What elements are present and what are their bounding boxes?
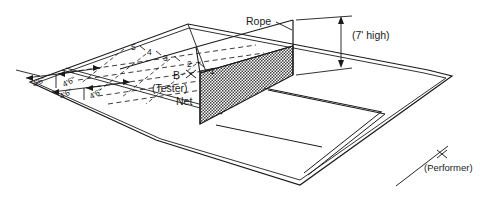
- net-height-label: (7' high): [352, 30, 390, 41]
- court-outer-boundary: [30, 24, 452, 185]
- height-dimension: [296, 16, 352, 75]
- lane-number-3: 3: [163, 53, 168, 63]
- net-band: [200, 46, 293, 124]
- performer-label: (Performer): [424, 163, 473, 173]
- tester-label: (Tester): [152, 83, 188, 94]
- court-perspective-drawing: [0, 0, 494, 210]
- net-label: Net: [176, 96, 192, 107]
- lane-number-2: 2: [187, 59, 192, 69]
- rope-leader-line: [276, 22, 292, 30]
- court-outline: [30, 24, 452, 185]
- rope-label: Rope: [246, 16, 271, 27]
- lane-number-1: 1: [210, 66, 215, 76]
- lane-number-4: 4: [147, 47, 152, 57]
- tester-mark-label: B: [173, 70, 180, 81]
- court-inner-boundary: [36, 28, 446, 180]
- lane-number-5: 5: [131, 42, 136, 52]
- diagram-canvas: Rope (7' high) B (Tester) Net (Performer…: [0, 0, 494, 210]
